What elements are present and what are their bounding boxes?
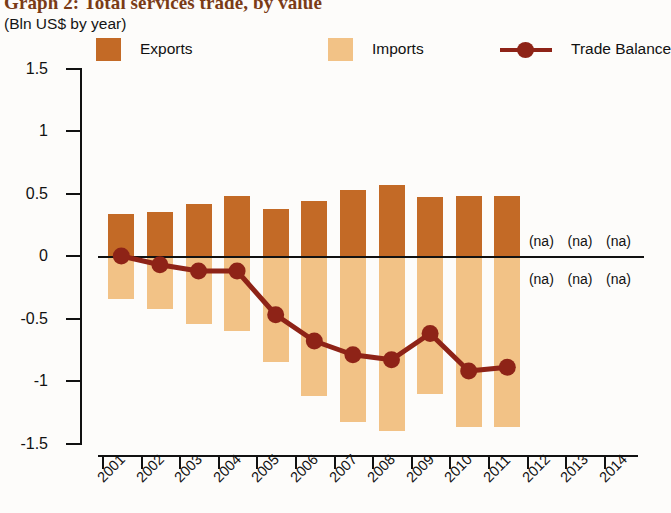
trade-balance-point-2008 — [383, 351, 400, 368]
trade-balance-point-2007 — [344, 346, 361, 363]
trade-balance-point-2004 — [229, 263, 246, 280]
trade-balance-series — [98, 68, 636, 458]
na-label-2014-above: (na) — [606, 233, 631, 249]
na-label-2012-below: (na) — [529, 271, 554, 287]
trade-balance-line — [121, 256, 507, 371]
exports-swatch-icon — [96, 38, 121, 61]
legend-item-exports: Exports — [96, 36, 193, 62]
na-label-2013-below: (na) — [568, 271, 593, 287]
legend-label-exports: Exports — [140, 40, 193, 58]
na-label-2014-below: (na) — [606, 271, 631, 287]
x-axis: 2001200220032004200520062007200820092010… — [0, 452, 644, 513]
plot-inner: (na)(na)(na)(na)(na)(na) — [98, 68, 636, 458]
trade-balance-point-2005 — [267, 306, 284, 323]
trade-balance-point-2011 — [499, 359, 516, 376]
legend-label-trade-balance: Trade Balance — [571, 40, 671, 58]
na-label-2013-above: (na) — [568, 233, 593, 249]
legend-dot-marker — [517, 42, 534, 58]
trade-balance-point-2001 — [113, 248, 130, 265]
chart-legend: Exports Imports Trade Balance — [96, 36, 644, 62]
trade-balance-point-2003 — [190, 263, 207, 280]
trade-balance-marker-icon — [500, 38, 552, 61]
legend-item-imports: Imports — [328, 36, 424, 62]
trade-balance-point-2009 — [422, 325, 439, 342]
trade-balance-point-2006 — [306, 333, 323, 350]
trade-balance-point-2010 — [460, 363, 477, 380]
chart-subtitle: (Bln US$ by year) — [4, 15, 624, 33]
title-block: Graph 2: Total services trade, by value … — [4, 0, 624, 33]
na-label-2012-above: (na) — [529, 233, 554, 249]
trade-balance-point-2002 — [151, 256, 168, 273]
page-title: Graph 2: Total services trade, by value — [4, 0, 624, 13]
imports-swatch-icon — [328, 38, 353, 61]
plot-area: (na)(na)(na)(na)(na)(na) — [0, 60, 644, 460]
legend-item-trade-balance: Trade Balance — [500, 36, 671, 62]
legend-label-imports: Imports — [372, 40, 424, 58]
